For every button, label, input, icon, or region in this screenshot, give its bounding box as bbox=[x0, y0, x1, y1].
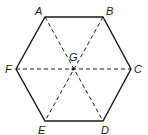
hexagon-diagram: A B C D E F G bbox=[0, 0, 148, 135]
vertex-label-c: C bbox=[134, 63, 142, 75]
vertex-label-e: E bbox=[38, 124, 46, 135]
vertex-label-d: D bbox=[101, 124, 109, 135]
vertex-label-b: B bbox=[106, 5, 113, 17]
vertex-label-a: A bbox=[34, 5, 42, 17]
vertex-label-f: F bbox=[5, 63, 13, 75]
center-point bbox=[72, 68, 75, 71]
center-label-g: G bbox=[69, 51, 78, 63]
